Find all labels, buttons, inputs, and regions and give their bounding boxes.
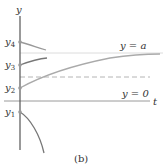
curve-y3 <box>20 58 47 65</box>
equilibrium-a-label: y = a <box>119 40 146 51</box>
y3-label: y3 <box>4 59 15 72</box>
y2-label: y2 <box>4 82 15 95</box>
figure-caption: (b) <box>74 153 88 164</box>
solution-curves-diagram: y t y4 y3 y2 y1 y = a y = 0 (b) <box>0 0 163 168</box>
t-axis-label: t <box>153 96 158 107</box>
y1-label: y1 <box>4 106 15 119</box>
point-y2 <box>18 86 22 90</box>
point-y1 <box>18 110 22 114</box>
y-axis-label: y <box>15 4 22 15</box>
curve-y1 <box>20 112 44 153</box>
y4-label: y4 <box>4 36 16 49</box>
curve-y4 <box>20 42 46 50</box>
point-y4 <box>18 40 22 44</box>
equilibrium-0-label: y = 0 <box>121 88 149 99</box>
point-y3 <box>18 63 22 67</box>
